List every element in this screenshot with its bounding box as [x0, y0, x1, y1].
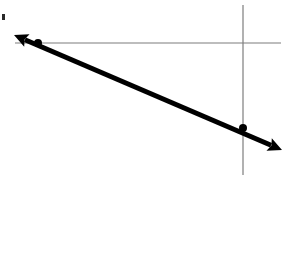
figure-root: Graph of a decreasing linear function on…	[0, 0, 286, 254]
y-intercept-point	[239, 124, 247, 132]
coordinate-plane-graph	[0, 0, 286, 254]
x-intercept-point	[34, 39, 42, 47]
edge-speck-artifact	[2, 14, 5, 20]
